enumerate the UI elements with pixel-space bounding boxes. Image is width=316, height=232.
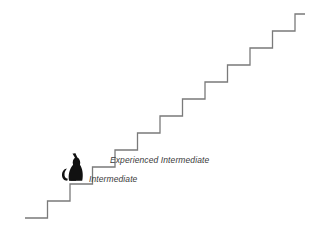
staircase-path xyxy=(25,14,305,218)
cat-icon xyxy=(61,152,85,183)
step-label-intermediate: Intermediate xyxy=(89,174,137,184)
staircase-illustration: Experienced Intermediate Intermediate xyxy=(0,0,316,232)
staircase-line-graphic xyxy=(0,0,316,232)
step-label-experienced-intermediate: Experienced Intermediate xyxy=(110,155,209,165)
